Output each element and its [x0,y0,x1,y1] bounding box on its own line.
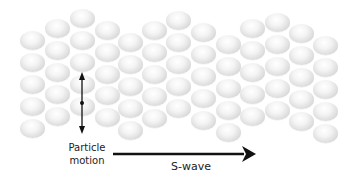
particle-motion-label: Particle motion [62,141,112,167]
arrows-layer [0,0,357,179]
s-wave-diagram: Particle motion S-wave [0,0,357,179]
s-wave-label: S-wave [171,160,211,173]
particle-label-line1: Particle [62,141,112,154]
particle-label-line2: motion [62,154,112,167]
particle-motion-arrow-icon [79,72,85,134]
